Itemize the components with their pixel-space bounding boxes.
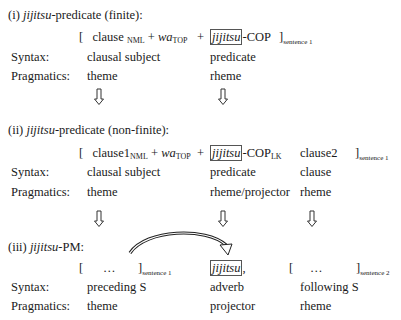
section-ii-formula: [ clause1NML + waTOP + — [79, 147, 204, 161]
heading-rest: -predicate (finite): — [51, 8, 142, 22]
section-iii-adverb: jijitsu, — [210, 262, 246, 275]
syntax-cell: preceding S — [87, 281, 146, 294]
syntax-cell: predicate — [210, 166, 256, 179]
sentence-label: sentence 1 — [359, 154, 388, 162]
heading-rest: -PM: — [58, 240, 84, 254]
section-ii-close: ]sentence 1 — [355, 147, 389, 162]
heading-rest: -predicate (non-finite): — [55, 123, 169, 137]
top-subscript: TOP — [173, 36, 188, 45]
pragmatics-cell: rheme — [300, 300, 331, 313]
open-bracket: [ — [289, 262, 293, 275]
pragmatics-label: Pragmatics: — [11, 186, 70, 199]
section-ii-heading: (ii) jijitsu-predicate (non-finite): — [8, 124, 169, 137]
syntax-label: Syntax: — [11, 51, 49, 64]
section-ii-predicate-formula: jijitsu-COPLK — [210, 147, 282, 161]
pragmatics-cell: projector — [210, 300, 255, 313]
pragmatics-cell: rheme — [300, 186, 331, 199]
pragmatics-label: Pragmatics: — [11, 70, 70, 83]
cop-term: -COP — [242, 30, 270, 44]
nml-subscript: NML — [130, 152, 148, 161]
section-i-predicate-formula: jijitsu-COP — [210, 31, 271, 44]
heading-number: (i) — [8, 8, 23, 22]
lk-subscript: LK — [271, 152, 282, 161]
wa-term: wa — [161, 146, 176, 160]
pragmatics-cell: rheme/projector — [210, 186, 290, 199]
syntax-cell: adverb — [210, 281, 244, 294]
plus-sign: + — [148, 30, 155, 44]
section-i-formula: [ clause NML + waTOP + — [79, 31, 204, 45]
open-bracket: [ — [79, 262, 83, 275]
heading-number: (ii) — [8, 123, 26, 137]
syntax-cell: clausal subject — [87, 51, 160, 64]
section-i-heading: (i) jijitsu-predicate (finite): — [8, 9, 143, 22]
syntax-cell: following S — [300, 281, 359, 294]
clause-term: clause — [93, 30, 124, 44]
clause-term: clause1 — [93, 146, 130, 160]
plus-sign: + — [197, 30, 204, 44]
boxed-jijitsu: jijitsu — [210, 260, 242, 276]
section-i-close: ]sentence 1 — [279, 31, 313, 46]
down-arrow-icon — [218, 211, 228, 227]
clause2-term: clause2 — [300, 147, 337, 160]
pragmatics-label: Pragmatics: — [11, 300, 70, 313]
sentence-label: sentence 1 — [142, 269, 171, 277]
heading-term: jijitsu — [26, 123, 54, 137]
plus-sign: + — [151, 146, 158, 160]
pragmatics-cell: theme — [87, 300, 118, 313]
curved-arrow-icon — [126, 231, 236, 261]
boxed-jijitsu: jijitsu — [210, 29, 242, 45]
section-iii-close-2: ]sentence 2 — [356, 262, 390, 277]
section-iii-close-1: ]sentence 1 — [138, 262, 172, 277]
ellipsis: … — [310, 262, 323, 275]
comma: , — [242, 261, 245, 275]
plus-sign: + — [197, 146, 204, 160]
pragmatics-cell: rheme — [210, 70, 241, 83]
open-bracket: [ — [79, 146, 83, 160]
down-arrow-icon — [94, 211, 104, 227]
boxed-jijitsu: jijitsu — [210, 145, 242, 161]
down-arrow-icon — [94, 89, 104, 105]
syntax-cell: predicate — [210, 51, 256, 64]
syntax-cell: clausal subject — [87, 166, 160, 179]
ellipsis: … — [103, 262, 116, 275]
heading-term: jijitsu — [30, 240, 58, 254]
down-arrow-icon — [218, 89, 228, 105]
pragmatics-cell: theme — [87, 70, 118, 83]
section-iii-heading: (iii) jijitsu-PM: — [8, 241, 84, 254]
nml-subscript: NML — [127, 36, 145, 45]
sentence-label: sentence 1 — [283, 38, 312, 46]
wa-term: wa — [158, 30, 173, 44]
sentence-label: sentence 2 — [360, 269, 389, 277]
pragmatics-cell: theme — [87, 186, 118, 199]
heading-term: jijitsu — [23, 8, 51, 22]
top-subscript: TOP — [176, 152, 191, 161]
cop-term: -COP — [242, 146, 270, 160]
down-arrow-icon — [307, 211, 317, 227]
open-bracket: [ — [79, 30, 83, 44]
syntax-label: Syntax: — [11, 166, 49, 179]
syntax-cell: clause — [300, 166, 331, 179]
heading-number: (iii) — [8, 240, 30, 254]
syntax-label: Syntax: — [11, 281, 49, 294]
